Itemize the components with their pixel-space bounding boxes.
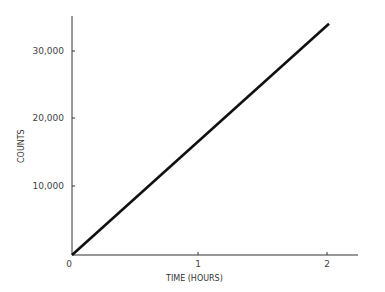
chart-canvas: 10,000 20,000 30,000 0 1 2 TIME (HOURS) …	[0, 0, 385, 292]
x-axis-label: TIME (HOURS)	[165, 274, 223, 283]
data-line	[72, 24, 329, 255]
x-tick-label: 1	[195, 259, 201, 269]
x-tick-label: 0	[66, 259, 72, 269]
x-tick-label: 2	[324, 259, 330, 269]
y-tick-label: 20,000	[33, 113, 65, 123]
y-tick-label: 10,000	[33, 181, 65, 191]
y-tick-label: 30,000	[33, 46, 65, 56]
y-axis-label: COUNTS	[17, 129, 26, 163]
